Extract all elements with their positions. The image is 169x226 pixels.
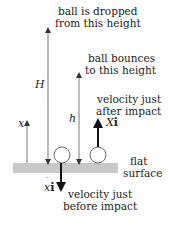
label-after-line1: velocity just — [96, 93, 162, 105]
label-before-line2: before impact — [63, 200, 138, 212]
h-symbol: h — [69, 112, 76, 125]
ball-after-impact — [90, 147, 106, 163]
bouncing-ball-diagram: x H h Xi ˙ xi ˙ ball is dropped from thi… — [0, 0, 169, 226]
label-before-line1: velocity just — [67, 188, 133, 200]
label-dropped-line2: from this height — [55, 17, 141, 29]
flat-surface — [13, 163, 118, 173]
label-surface-line1: flat — [130, 155, 148, 167]
label-after-line2: after impact — [96, 105, 162, 117]
label-bounces-line2: to this height — [85, 64, 157, 76]
label-bounces-line1: ball bounces — [88, 52, 155, 64]
H-symbol: H — [34, 78, 45, 91]
velocity-before-dot: ˙ — [45, 176, 49, 185]
x-symbol: x — [18, 117, 25, 130]
label-surface-line2: surface — [123, 167, 162, 179]
label-dropped-line1: ball is dropped — [58, 5, 138, 17]
ball-before-impact — [54, 147, 70, 163]
